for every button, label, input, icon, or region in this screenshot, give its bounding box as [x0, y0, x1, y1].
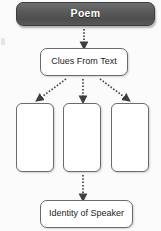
node-clues-from-text-label: Clues From Text	[48, 57, 119, 66]
node-poem[interactable]: Poem	[16, 2, 155, 26]
connector-clues-to-blank-1	[39, 79, 66, 99]
node-identity-of-speaker-label: Identity of Speaker	[46, 209, 127, 218]
node-clues-from-text[interactable]: Clues From Text	[40, 48, 128, 76]
node-blank-box-1[interactable]	[16, 103, 54, 172]
node-identity-of-speaker[interactable]: Identity of Speaker	[40, 200, 133, 228]
node-poem-label: Poem	[71, 8, 101, 19]
connector-clues-to-blank-3	[100, 79, 127, 99]
node-blank-box-2[interactable]	[63, 103, 101, 172]
node-blank-box-3[interactable]	[111, 103, 149, 172]
flowchart-diagram: Poem Clues From Text Identity of Speaker	[0, 0, 161, 231]
scan-artifact	[1, 38, 5, 45]
